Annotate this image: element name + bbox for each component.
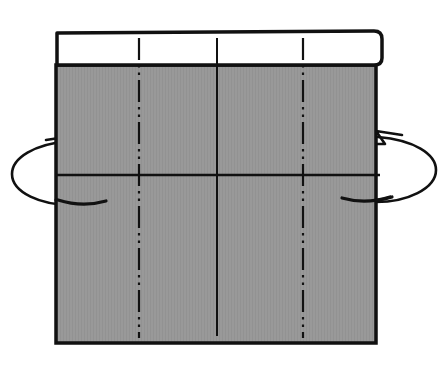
paper-top-flap-group bbox=[57, 31, 382, 65]
paper-top-flap bbox=[57, 31, 382, 65]
origami-diagram-svg bbox=[0, 0, 448, 368]
origami-diagram-canvas: Origami Fold Step Diagram dash-dot-dot l… bbox=[0, 0, 448, 368]
